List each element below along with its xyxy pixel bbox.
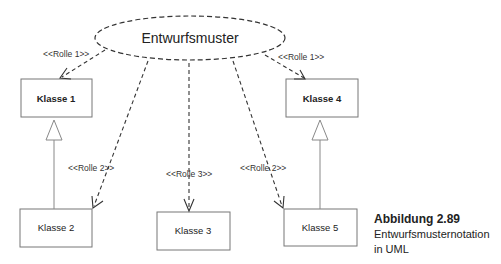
role-label: <<Rolle 2>> <box>240 163 286 173</box>
role-label: <<Rolle 2>> <box>68 163 114 173</box>
role-label: <<Rolle 1>> <box>278 52 324 62</box>
class-label: Klasse 4 <box>303 93 342 104</box>
class-label: Klasse 2 <box>38 222 74 233</box>
caption-title: Abbildung 2.89 <box>374 212 490 227</box>
role-label: <<Rolle 1>> <box>43 49 89 59</box>
role-arrow-k2 <box>94 61 148 206</box>
class-label: Klasse 5 <box>302 222 338 233</box>
hollow-triangle-icon <box>46 120 62 140</box>
caption-line-2: in UML <box>374 242 490 257</box>
class-label: Klasse 3 <box>175 225 211 236</box>
arrowhead-icon <box>274 196 284 208</box>
class-box-klasse-4[interactable]: Klasse 4 <box>286 79 358 117</box>
generalization-k2-k1 <box>46 120 62 209</box>
caption-line-1: Entwurfsmusternotation <box>374 227 490 242</box>
hollow-triangle-icon <box>312 120 328 140</box>
class-label: Klasse 1 <box>37 93 76 104</box>
figure-caption: Abbildung 2.89 Entwurfsmusternotation in… <box>374 212 490 257</box>
arrowhead-icon <box>92 196 103 208</box>
role-arrow-k5 <box>233 61 282 206</box>
class-box-klasse-1[interactable]: Klasse 1 <box>21 79 92 117</box>
class-box-klasse-5[interactable]: Klasse 5 <box>284 209 357 246</box>
class-box-klasse-2[interactable]: Klasse 2 <box>20 209 92 247</box>
arrowhead-icon <box>60 68 71 79</box>
generalization-k5-k4 <box>312 120 328 209</box>
pattern-label: Entwurfsmuster <box>141 30 239 46</box>
class-box-klasse-3[interactable]: Klasse 3 <box>157 212 230 250</box>
role-label: <<Rolle 3>> <box>166 169 212 179</box>
